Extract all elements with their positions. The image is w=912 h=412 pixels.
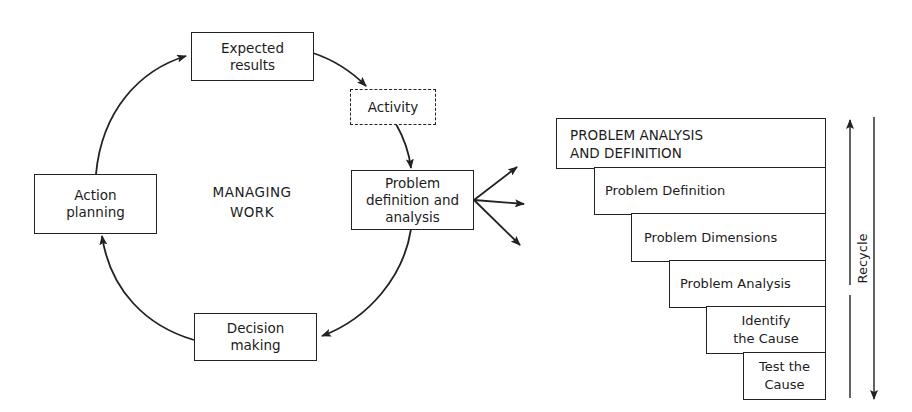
- node-decision-making: Decision making: [194, 313, 317, 361]
- step-problem-analysis-definition: PROBLEM ANALYSIS AND DEFINITION: [556, 118, 826, 169]
- fan-arrow-down: [474, 200, 520, 245]
- arrow-decision-to-action: [102, 236, 194, 340]
- center-label: MANAGING WORK: [200, 182, 304, 222]
- node-problem-definition: Problem definition and analysis: [351, 170, 474, 230]
- node-action-planning: Action planning: [34, 174, 157, 234]
- node-activity: Activity: [350, 89, 436, 125]
- arrow-expected-to-activity: [313, 53, 366, 86]
- step-test-cause: Test the Cause: [743, 352, 826, 400]
- arrow-problem-to-decision: [322, 229, 411, 336]
- step-problem-dimensions: Problem Dimensions: [631, 213, 826, 262]
- node-expected-results: Expected results: [191, 32, 314, 81]
- arrow-activity-to-problem: [396, 124, 411, 168]
- arrow-action-to-expected: [96, 56, 186, 174]
- fan-arrow-up: [474, 167, 517, 200]
- step-problem-definition: Problem Definition: [594, 167, 826, 215]
- fan-arrow-mid: [474, 200, 524, 204]
- recycle-label: Recycle: [855, 231, 870, 287]
- step-identify-cause: Identify the Cause: [706, 306, 826, 354]
- step-problem-analysis: Problem Analysis: [669, 260, 826, 308]
